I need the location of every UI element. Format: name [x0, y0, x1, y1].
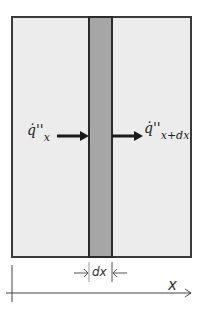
- flux-out-arrow: [112, 131, 143, 141]
- flux-out-label: q̇''x+dx: [144, 120, 189, 136]
- flux-out-subscript: x+dx: [161, 129, 190, 142]
- flux-out-symbol: q̇'': [144, 120, 161, 136]
- flux-in-label: q̇''x: [27, 122, 50, 138]
- dx-label: dx: [92, 265, 107, 279]
- flux-in-symbol: q̇'': [27, 122, 44, 138]
- axis-label: x: [168, 276, 177, 294]
- flux-in-arrow: [57, 131, 89, 141]
- flux-in-subscript: x: [44, 131, 50, 144]
